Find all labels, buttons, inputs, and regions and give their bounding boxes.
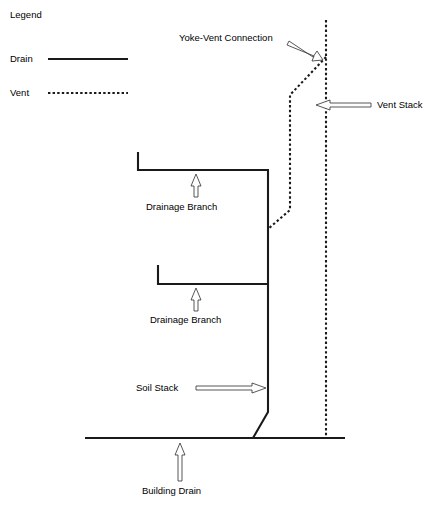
drainage-branch-lower-arrow-icon: [191, 288, 201, 311]
building-drain-arrow-icon: [175, 443, 185, 481]
drainage-branch-lower-pipe: [158, 265, 269, 284]
drainage-branch-upper-arrow-icon: [191, 174, 201, 197]
drainage-branch-upper-label: Drainage Branch: [146, 201, 217, 212]
soil-stack-label: Soil Stack: [136, 382, 178, 393]
drainage-branch-lower-label: Drainage Branch: [150, 314, 221, 325]
legend-title: Legend: [10, 9, 42, 20]
drainage-branch-upper-pipe: [138, 152, 269, 170]
yoke-vent-connection-label: Yoke-Vent Connection: [179, 32, 273, 43]
soil-stack-arrow-icon: [196, 383, 266, 393]
soil-stack-pipe: [253, 170, 268, 438]
legend-label-vent: Vent: [10, 87, 29, 98]
yoke-vent-connection-pipe: [268, 57, 326, 229]
vent-stack-arrow-icon: [316, 100, 371, 110]
yoke-vent-connection-arrow-icon: [287, 41, 323, 61]
riser-diagram: Legend Drain Vent Yoke-Vent Connection V…: [0, 0, 440, 506]
legend-label-drain: Drain: [10, 53, 33, 64]
vent-stack-label: Vent Stack: [377, 99, 423, 110]
building-drain-label: Building Drain: [142, 485, 201, 496]
